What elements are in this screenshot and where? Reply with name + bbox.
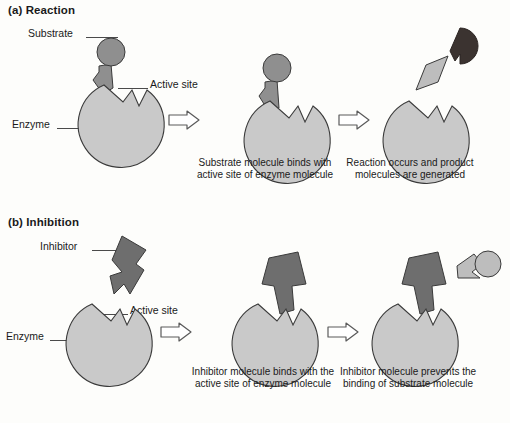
substrate-molecule-unbound bbox=[457, 251, 501, 278]
reaction-step-2-caption: Substrate molecule binds with active sit… bbox=[190, 157, 340, 181]
inhibition-step-3-graphic bbox=[362, 228, 507, 373]
inhibition-step-1-graphic bbox=[48, 228, 163, 373]
inhibitor-molecule bbox=[110, 236, 146, 294]
right-arrow-icon bbox=[338, 110, 370, 130]
diagram-canvas: (a) Reaction Substrate Active site Enzym… bbox=[0, 0, 510, 423]
label-enzyme: Enzyme bbox=[12, 118, 50, 130]
right-arrow-icon bbox=[327, 322, 359, 342]
inhibition-step-2-graphic bbox=[222, 228, 337, 373]
inhibition-step-3-caption: Inhibitor molecule prevents the binding … bbox=[333, 366, 483, 390]
reaction-step-3-graphic bbox=[368, 18, 503, 163]
reaction-step-1-graphic bbox=[55, 18, 165, 163]
reaction-step-3-caption: Reaction occurs and product molecules ar… bbox=[335, 157, 485, 181]
inhibition-step-2-caption: Inhibitor molecule binds with the active… bbox=[188, 366, 338, 390]
section-title-reaction: (a) Reaction bbox=[8, 4, 75, 16]
enzyme-molecule bbox=[78, 85, 164, 167]
right-arrow-icon bbox=[168, 110, 200, 130]
product-molecule-light bbox=[416, 56, 448, 90]
substrate-molecule bbox=[93, 38, 125, 94]
section-title-inhibition: (b) Inhibition bbox=[8, 216, 79, 228]
label-enzyme-inhibition: Enzyme bbox=[6, 330, 44, 342]
product-molecule-dark bbox=[450, 28, 478, 64]
right-arrow-icon bbox=[160, 322, 192, 342]
enzyme-molecule bbox=[66, 304, 152, 386]
reaction-step-2-graphic bbox=[228, 18, 338, 163]
